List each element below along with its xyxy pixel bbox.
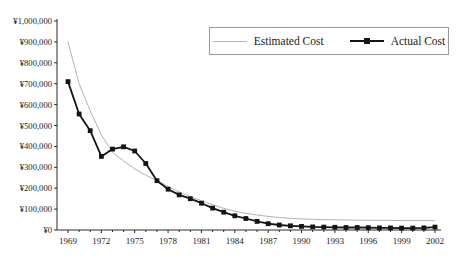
actual-cost-marker	[388, 226, 393, 231]
y-tick-label: ¥800,000	[20, 58, 52, 68]
actual-cost-marker	[299, 224, 304, 229]
actual-cost-marker	[110, 147, 115, 152]
x-tick-label: 1972	[92, 236, 110, 246]
actual-cost-marker	[277, 223, 282, 228]
estimated-cost-line-swatch	[213, 37, 247, 46]
actual-cost-marker	[132, 149, 137, 154]
legend-item-estimated-cost: Estimated Cost	[213, 35, 324, 47]
actual-cost-marker	[66, 79, 71, 84]
actual-cost-marker	[288, 223, 293, 228]
actual-cost-marker	[232, 213, 237, 218]
y-tick-label: ¥200,000	[20, 183, 52, 193]
estimated-line-sample	[213, 41, 247, 42]
x-tick-label: 1984	[226, 236, 245, 246]
actual-cost-marker	[355, 225, 360, 230]
x-tick-label: 1978	[159, 236, 178, 246]
chart-container: ¥0¥100,000¥200,000¥300,000¥400,000¥500,0…	[0, 0, 464, 268]
x-tick-label: 1981	[192, 236, 210, 246]
actual-cost-marker	[344, 225, 349, 230]
x-tick-label: 1990	[293, 236, 312, 246]
actual-cost-marker	[155, 178, 160, 183]
x-tick-label: 1969	[59, 236, 78, 246]
chart-legend: Estimated Cost Actual Cost	[209, 27, 449, 55]
estimated-cost-line	[68, 42, 435, 221]
actual-cost-marker	[188, 196, 193, 201]
actual-cost-marker	[433, 225, 438, 230]
actual-cost-marker	[88, 128, 93, 133]
actual-cost-marker	[266, 221, 271, 226]
actual-cost-marker	[99, 154, 104, 159]
y-tick-label: ¥100,000	[20, 204, 52, 214]
actual-cost-marker	[210, 206, 215, 211]
actual-cost-marker	[77, 112, 82, 117]
x-tick-label: 2002	[426, 236, 444, 246]
actual-cost-marker	[166, 187, 171, 192]
actual-cost-marker	[221, 210, 226, 215]
y-tick-label: ¥1,000,000	[13, 16, 52, 26]
legend-label-actual-cost: Actual Cost	[391, 35, 446, 47]
y-tick-label: ¥400,000	[20, 141, 52, 151]
x-tick-label: 1987	[259, 236, 278, 246]
actual-cost-marker	[143, 161, 148, 166]
x-tick-label: 1999	[393, 236, 412, 246]
legend-label-estimated-cost: Estimated Cost	[254, 35, 324, 47]
actual-cost-line	[68, 82, 435, 229]
y-tick-label: ¥700,000	[20, 79, 52, 89]
y-tick-label: ¥0	[43, 225, 52, 235]
legend-item-actual-cost: Actual Cost	[350, 35, 446, 47]
x-tick-label: 1996	[359, 236, 378, 246]
actual-marker-sample	[364, 38, 370, 44]
actual-cost-marker	[422, 226, 427, 231]
x-tick-label: 1975	[126, 236, 145, 246]
x-tick-label: 1993	[326, 236, 345, 246]
actual-cost-marker	[399, 226, 404, 231]
actual-cost-marker	[321, 225, 326, 230]
y-tick-label: ¥600,000	[20, 100, 52, 110]
actual-cost-marker	[333, 225, 338, 230]
actual-cost-marker	[410, 226, 415, 231]
y-tick-label: ¥300,000	[20, 162, 52, 172]
y-tick-label: ¥900,000	[20, 37, 52, 47]
actual-cost-marker	[121, 144, 126, 149]
y-tick-label: ¥500,000	[20, 121, 52, 131]
actual-cost-marker	[177, 193, 182, 198]
actual-cost-line-swatch	[350, 37, 384, 46]
actual-cost-marker	[310, 225, 315, 230]
actual-cost-marker	[366, 225, 371, 230]
actual-cost-marker	[244, 216, 249, 221]
actual-cost-marker	[255, 219, 260, 224]
actual-cost-marker	[199, 201, 204, 206]
actual-cost-marker	[377, 226, 382, 231]
